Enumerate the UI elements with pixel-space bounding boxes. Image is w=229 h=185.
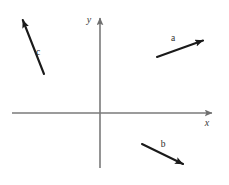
x-axis-label: x — [204, 117, 210, 128]
y-axis-label: y — [86, 14, 92, 25]
vector-a-label: a — [171, 33, 176, 43]
vector-b-label: b — [161, 139, 166, 149]
diagram-canvas: x y a b c — [0, 0, 229, 185]
vector-diagram-figure: x y a b c — [0, 0, 229, 185]
vector-c-arrow — [23, 20, 44, 74]
vector-a-arrow — [157, 41, 203, 58]
vector-c-label: c — [36, 47, 40, 57]
